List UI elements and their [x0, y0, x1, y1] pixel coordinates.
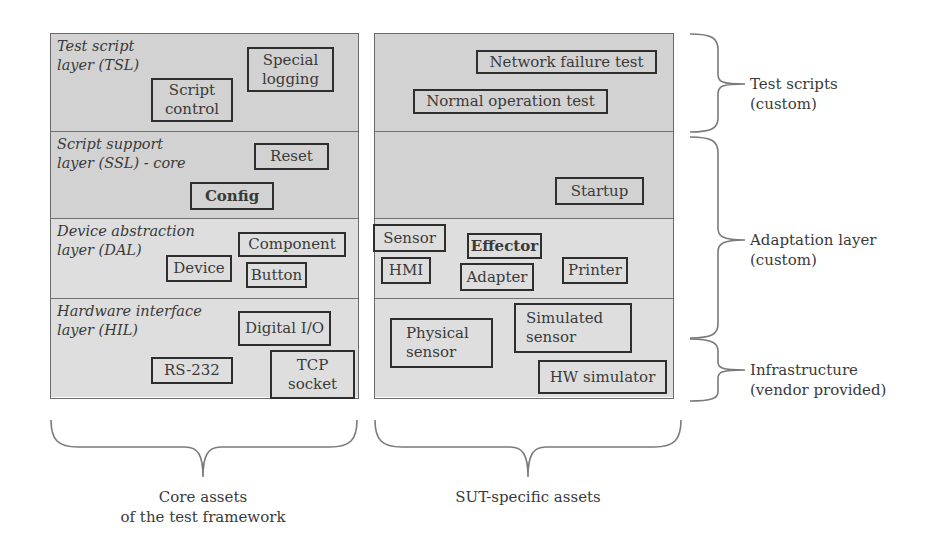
label-infrastructure: Infrastructure (vendor provided) [750, 360, 886, 400]
brace-infrastructure-icon [690, 339, 745, 401]
brace-sut-assets-icon [375, 420, 681, 477]
label-core-assets: Core assets of the test framework [103, 487, 303, 527]
label-test-scripts: Test scripts (custom) [750, 74, 838, 114]
label-sut-assets: SUT-specific assets [428, 487, 628, 507]
brace-core-assets-icon [51, 420, 357, 477]
brace-test-scripts-icon [690, 34, 745, 132]
brace-adaptation-layer-icon [690, 137, 745, 338]
label-adaptation-layer: Adaptation layer (custom) [750, 230, 877, 270]
